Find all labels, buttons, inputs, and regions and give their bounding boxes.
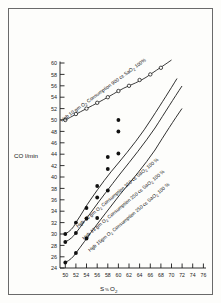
- x-tick-label: 64: [137, 272, 143, 278]
- x-tick-marks: [65, 264, 203, 269]
- svg-text:Hgb 15gm O2 Consumption 250: Hgb 15gm O2 Consumption 250 cc SaO2 100 …: [87, 182, 171, 254]
- y-tick-label: 36: [51, 197, 57, 203]
- ann-top-pct: 100%: [134, 57, 148, 69]
- data-point: [117, 89, 120, 92]
- y-axis-title: CO l/min: [14, 152, 39, 159]
- data-point: [95, 184, 99, 188]
- data-point: [106, 167, 110, 171]
- y-tick-label: 60: [51, 60, 57, 66]
- ann-a-pct: 100 %: [146, 157, 160, 170]
- y-tick-label: 28: [51, 243, 57, 249]
- data-point: [117, 152, 121, 156]
- ann-c-consumption: Consumption 250 cc: [111, 200, 149, 233]
- ann-c-pct: 100 %: [157, 182, 171, 195]
- ann-c-hgb: Hgb 15gm: [87, 234, 108, 252]
- x-tick-label: 76: [201, 272, 207, 278]
- markers-hgb13-250cc: [63, 130, 120, 244]
- x-axis-title-s: S: [100, 285, 104, 292]
- ann-top-consumption: Consumption 900 cc: [86, 73, 125, 104]
- x-tick-label: 56: [94, 272, 100, 278]
- y-tick-label: 56: [51, 83, 57, 89]
- x-tick-label: 72: [179, 272, 185, 278]
- y-tick-label: 46: [51, 140, 57, 146]
- data-point: [106, 96, 109, 99]
- svg-text:Hgb 13 gm O2 Consumption 250: Hgb 13 gm O2 Consumption 250 cc SaO2 100…: [81, 169, 166, 242]
- x-axis-title-pct: %: [105, 287, 109, 292]
- y-tick-label: 24: [51, 265, 57, 271]
- data-point: [63, 261, 67, 265]
- y-tick-label: 48: [51, 129, 57, 135]
- y-tick-label: 54: [51, 94, 57, 100]
- x-tick-label: 52: [73, 272, 79, 278]
- x-tick-label: 70: [169, 272, 175, 278]
- ann-a-consumption: Consumption 350 cc: [100, 175, 138, 208]
- y-tick-label: 38: [51, 186, 57, 192]
- data-point: [85, 206, 89, 210]
- data-point: [95, 196, 99, 200]
- x-tick-labels: 50 52 54 56 58 60 62 64 66 68 70 72 74 7…: [62, 272, 206, 278]
- data-point: [106, 189, 110, 193]
- annotation-hgb13-250cc: Hgb 13 gm O2 Consumption 250 cc SaO2 100…: [81, 169, 166, 242]
- y-tick-label: 42: [51, 163, 57, 169]
- y-tick-label: 44: [51, 151, 57, 157]
- y-tick-label: 34: [51, 208, 57, 214]
- data-point: [117, 130, 121, 134]
- data-point: [159, 66, 162, 69]
- annotation-hgb15-250cc: Hgb 15gm O2 Consumption 250 cc SaO2 100 …: [87, 182, 171, 254]
- x-tick-label: 58: [105, 272, 111, 278]
- figure-container: 60 58 56 54 52 50 48 46 44 42 40 38 36 3…: [0, 0, 221, 303]
- y-tick-label: 58: [51, 72, 57, 78]
- y-tick-label: 52: [51, 106, 57, 112]
- y-tick-label: 40: [51, 174, 57, 180]
- y-tick-label: 32: [51, 220, 57, 226]
- data-point: [96, 101, 99, 104]
- y-tick-label: 26: [51, 254, 57, 260]
- data-point: [74, 251, 78, 255]
- svg-text:Hgb 10 gm O2 Consumption 900 c: Hgb 10 gm O2 Consumption 900 cc SaO2 100…: [60, 57, 149, 124]
- x-tick-label: 66: [147, 272, 153, 278]
- data-point: [117, 118, 121, 122]
- ann-b-pct: 100 %: [152, 169, 166, 182]
- y-tick-label: 30: [51, 231, 57, 237]
- data-point: [74, 231, 78, 235]
- y-tick-labels: 60 58 56 54 52 50 48 46 44 42 40 38 36 3…: [51, 60, 57, 271]
- svg-text:Hgb 15 gm O2 Consumption 350: Hgb 15 gm O2 Consumption 350 cc SaO2 100…: [75, 157, 160, 230]
- data-point: [106, 155, 110, 159]
- x-tick-label: 74: [190, 272, 196, 278]
- y-tick-label: 50: [51, 117, 57, 123]
- data-point: [149, 73, 152, 76]
- data-point: [138, 78, 141, 81]
- x-tick-label: 68: [158, 272, 164, 278]
- x-tick-label: 54: [84, 272, 90, 278]
- annotation-hgb10-900cc: Hgb 10 gm O2 Consumption 900 cc SaO2 100…: [60, 57, 149, 124]
- x-axis-title: S % O 2: [100, 285, 118, 294]
- x-tick-label: 60: [116, 272, 122, 278]
- x-tick-label: 50: [62, 272, 68, 278]
- ann-top-hgb: Hgb 10 gm: [60, 105, 82, 123]
- markers-hgb15-350cc: [63, 118, 120, 236]
- annotation-hgb15-350cc: Hgb 15 gm O2 Consumption 350 cc SaO2 100…: [75, 157, 160, 230]
- ann-b-consumption: Consumption 250 cc: [106, 187, 144, 220]
- data-point: [85, 107, 88, 110]
- data-point: [63, 240, 67, 244]
- data-point: [127, 84, 130, 87]
- x-axis-title-sub: 2: [115, 289, 118, 294]
- x-tick-label: 62: [126, 272, 132, 278]
- data-point: [95, 216, 99, 220]
- y-tick-marks: [60, 63, 65, 268]
- data-point: [63, 232, 67, 236]
- chart-canvas: 60 58 56 54 52 50 48 46 44 42 40 38 36 3…: [0, 0, 221, 303]
